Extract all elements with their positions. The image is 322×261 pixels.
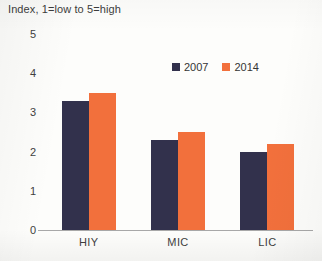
legend-swatch-icon	[222, 63, 230, 71]
legend-label: 2014	[234, 61, 258, 73]
x-axis-tick-label: MIC	[167, 236, 188, 248]
legend-swatch-icon	[172, 63, 180, 71]
bar-hiy-2014	[89, 93, 116, 230]
bar-mic-2007	[151, 140, 178, 230]
x-axis-tick-label: LIC	[258, 236, 276, 248]
y-axis-tick-label: 5	[0, 28, 36, 40]
x-axis-tick-label: HIY	[79, 236, 99, 248]
legend-item-2007: 2007	[172, 61, 208, 73]
y-axis-tick-label: 3	[0, 106, 36, 118]
bar-hiy-2007	[62, 101, 89, 230]
bar-chart: Index, 1=low to 5=high 012345 20072014 H…	[0, 0, 322, 261]
legend-item-2014: 2014	[222, 61, 258, 73]
y-axis-tick-labels: 012345	[0, 0, 36, 261]
legend-label: 2007	[184, 61, 208, 73]
bar-group	[44, 34, 133, 230]
x-axis-line	[44, 230, 313, 231]
y-axis-tick-label: 1	[0, 185, 36, 197]
chart-legend: 20072014	[172, 61, 259, 73]
bar-lic-2007	[240, 152, 267, 230]
y-axis-tick-label: 0	[0, 224, 36, 236]
y-axis-tick-label: 2	[0, 146, 36, 158]
bar-lic-2014	[267, 144, 294, 230]
bar-mic-2014	[178, 132, 205, 230]
y-axis-tick-label: 4	[0, 67, 36, 79]
